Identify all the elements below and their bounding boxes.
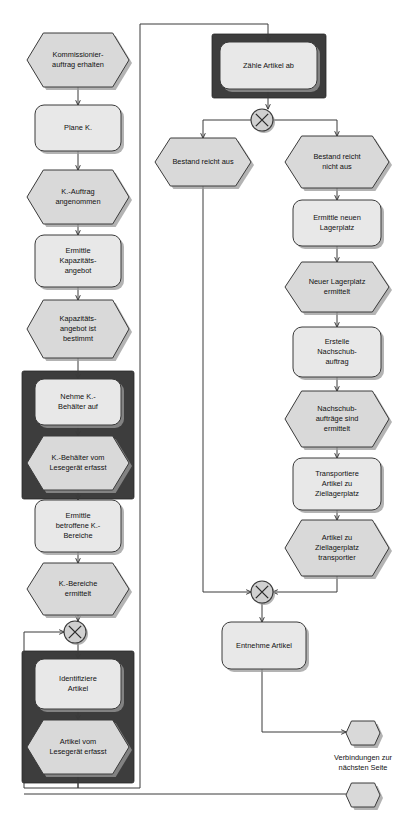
node-zaehle-artikel-ab[interactable]: Zähle Artikel ab xyxy=(220,42,320,92)
node-identifiziere-artikel[interactable]: IdentifiziereArtikel xyxy=(35,659,124,712)
function-shape xyxy=(293,458,381,510)
connector-c14 xyxy=(203,120,251,138)
node-entnehme-artikel[interactable]: Entnehme Artikel xyxy=(222,622,309,672)
event-shape xyxy=(285,520,389,576)
node-transportiere-artikel-zu-ziellagerplatz[interactable]: TransportiereArtikel zuZiellagerplatz xyxy=(293,458,384,513)
event-shape xyxy=(27,436,129,490)
offpage-connector-caption: Verbindungen zurnächsten Seite xyxy=(334,753,392,772)
node-ermittle-neuen-lagerplatz[interactable]: Ermittle neuenLagerplatz xyxy=(293,200,384,249)
event-shape xyxy=(285,136,389,188)
connector-c25 xyxy=(262,669,346,732)
node-nachschub-auftraege-sind-ermittelt[interactable]: Nachschub-aufträge sindermittelt xyxy=(285,391,392,450)
node-kapazitaets-angebot-ist-bestimmt[interactable]: Kapazitäts-angebot istbestimmt xyxy=(27,300,132,361)
node-nehme-k-behaelter-auf[interactable]: Nehme K.-Behälter auf xyxy=(35,379,124,428)
function-shape xyxy=(35,500,121,552)
flowchart-canvas: Kommissionier-auftrag erhaltenPlane K.K.… xyxy=(0,0,418,840)
gateway-join-artikelschleife[interactable] xyxy=(64,621,88,645)
function-shape xyxy=(35,235,121,287)
node-artikel-zu-ziellagerplatz-transportier[interactable]: Artikel zuZiellagerplatztransportier xyxy=(285,520,392,579)
node-ermittle-betroffene-k-bereiche[interactable]: Ermittlebetroffene K.-Bereiche xyxy=(35,500,124,555)
node-layer: Kommissionier-auftrag erhaltenPlane K.K.… xyxy=(27,33,392,777)
event-shape xyxy=(285,391,389,447)
offpage-shape xyxy=(346,783,380,807)
gateway-split-bestand[interactable] xyxy=(251,109,275,133)
node-neuer-lagerplatz-ermittelt[interactable]: Neuer Lagerplatzermittelt xyxy=(285,262,392,315)
node-artikel-vom-lesegeraet-erfasst[interactable]: Artikel vomLesegerät erfasst xyxy=(27,720,132,777)
event-shape xyxy=(285,262,389,312)
event-shape xyxy=(27,563,129,615)
node-k-behaelter-vom-lesegeraet-erfasst[interactable]: K.-Behälter vomLesegerät erfasst xyxy=(27,436,132,493)
offpage-shape xyxy=(346,721,380,745)
connector-c23 xyxy=(203,186,251,592)
gateway-join-entnahme[interactable] xyxy=(251,581,275,605)
event-shape xyxy=(27,300,129,358)
node-ermittle-kapazitaets-angebot[interactable]: ErmittleKapazitäts-angebot xyxy=(35,235,124,290)
connector-c15 xyxy=(273,120,337,136)
event-shape xyxy=(27,170,129,224)
function-shape xyxy=(35,379,121,425)
function-shape xyxy=(222,622,306,669)
function-shape xyxy=(220,42,317,89)
node-kommissionier-auftrag-erhalten[interactable]: Kommissionier-auftrag erhalten xyxy=(27,33,132,90)
node-plane-k[interactable]: Plane K. xyxy=(35,105,124,154)
node-k-auftrag-angenommen[interactable]: K.-Auftragangenommen xyxy=(27,170,132,227)
event-shape xyxy=(155,138,251,186)
function-shape xyxy=(35,105,121,151)
event-shape xyxy=(27,33,129,87)
offpage-connector-2[interactable] xyxy=(346,783,383,810)
offpage-connector-1[interactable] xyxy=(346,721,383,748)
event-shape xyxy=(27,720,129,774)
function-shape xyxy=(293,327,381,377)
node-bestand-reicht-nicht-aus[interactable]: Bestand reichtnicht aus xyxy=(285,136,392,191)
flowchart-diagram: Kommissionier-auftrag erhaltenPlane K.K.… xyxy=(0,0,418,840)
caption-layer: Verbindungen zurnächsten Seite xyxy=(334,753,392,772)
function-shape xyxy=(293,200,381,246)
node-k-bereiche-ermittelt[interactable]: K.-Bereicheermittelt xyxy=(27,563,132,618)
node-bestand-reicht-aus[interactable]: Bestand reicht aus xyxy=(155,138,254,189)
node-erstelle-nachschub-auftrag[interactable]: ErstelleNachschub-auftrag xyxy=(293,327,384,380)
function-shape xyxy=(35,659,121,709)
